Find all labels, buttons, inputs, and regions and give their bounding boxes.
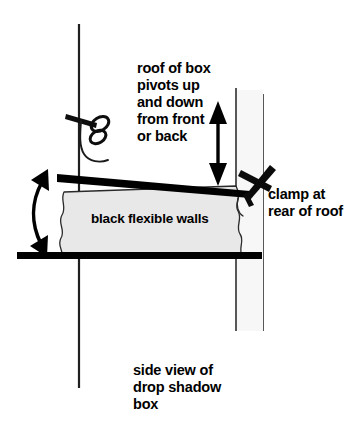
base-bar-icon	[17, 252, 262, 259]
annotation-clamp-rear: clamp at rear of roof	[268, 186, 343, 220]
spring-clip-left-icon	[65, 113, 112, 161]
vertical-stand-right-shaft-fill	[237, 90, 263, 331]
pivot-arrow-vertical-icon	[209, 101, 227, 186]
annotation-roof-pivot: roof of box pivots up and down from fron…	[137, 60, 211, 145]
diagram-caption: side view of drop shadow box	[133, 362, 221, 413]
diagram-canvas: roof of box pivots up and down from fron…	[0, 0, 362, 434]
pivot-arrow-curved-icon	[30, 169, 49, 257]
annotation-flexible-walls: black flexible walls	[91, 211, 209, 226]
